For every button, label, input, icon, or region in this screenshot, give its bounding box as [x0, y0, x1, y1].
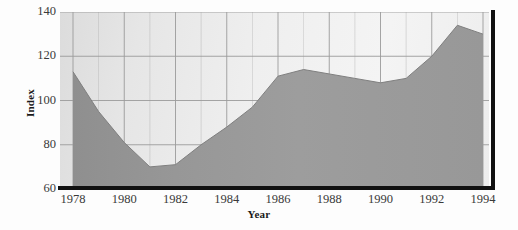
y-tick-label: 80 — [12, 137, 56, 152]
x-axis-title: Year — [0, 208, 518, 220]
x-axis-line — [58, 186, 495, 190]
x-tick-label: 1986 — [253, 192, 303, 207]
x-tick-label: 1988 — [304, 192, 354, 207]
x-axis-tick-labels: 197819801982198419861988199019921994 — [0, 192, 518, 208]
area-chart: Index 6080100120140 19781980198219841986… — [0, 0, 518, 230]
right-border-line — [491, 10, 495, 190]
x-tick-label: 1982 — [151, 192, 201, 207]
plot-svg — [60, 12, 489, 189]
y-tick-label: 140 — [12, 4, 56, 19]
y-tick-label: 120 — [12, 48, 56, 63]
x-tick-label: 1992 — [407, 192, 457, 207]
plot-area — [60, 12, 489, 189]
x-tick-label: 1978 — [48, 192, 98, 207]
x-tick-label: 1984 — [202, 192, 252, 207]
x-tick-label: 1990 — [356, 192, 406, 207]
x-tick-label: 1994 — [458, 192, 508, 207]
x-tick-label: 1980 — [99, 192, 149, 207]
y-tick-label: 100 — [12, 93, 56, 108]
